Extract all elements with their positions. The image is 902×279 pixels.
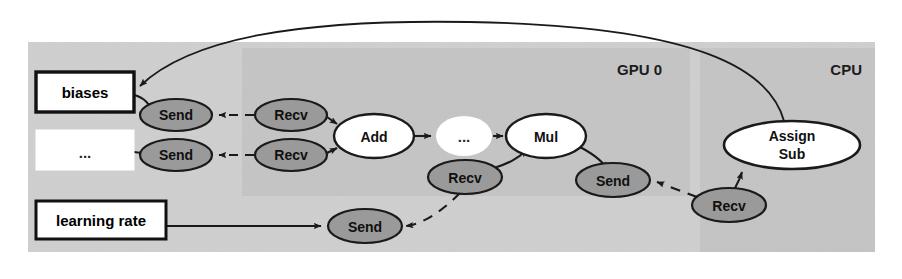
node-middle-dots-label: ... — [458, 128, 471, 145]
node-recv-other[interactable]: Recv — [255, 139, 327, 171]
node-send-other[interactable]: Send — [140, 139, 212, 171]
node-add[interactable]: Add — [334, 114, 414, 158]
node-send-grad-label: Send — [596, 173, 630, 189]
node-recv-lr[interactable]: Recv — [428, 160, 502, 194]
panel-label-cpu: CPU — [830, 61, 862, 78]
node-recv-biases-label: Recv — [274, 107, 308, 123]
node-middle-dots: ... — [436, 116, 492, 156]
node-recv-grad[interactable]: Recv — [692, 188, 766, 222]
node-recv-other-label: Recv — [274, 147, 308, 163]
device-placement-diagram: GPU 0 CPU — [0, 0, 902, 279]
node-add-label: Add — [360, 129, 387, 145]
node-ellipsis-box-label: ... — [79, 144, 92, 161]
node-learning-rate-label: learning rate — [56, 212, 146, 229]
node-recv-lr-label: Recv — [448, 170, 482, 186]
node-send-biases-label: Send — [159, 107, 193, 123]
node-send-lr-label: Send — [348, 219, 382, 235]
node-assign-sub-label-line2: Sub — [779, 146, 805, 162]
node-recv-biases[interactable]: Recv — [255, 99, 327, 131]
node-mul-label: Mul — [534, 129, 558, 145]
panel-label-gpu0: GPU 0 — [617, 61, 662, 78]
node-send-lr[interactable]: Send — [328, 209, 402, 243]
node-mul[interactable]: Mul — [506, 114, 586, 158]
node-learning-rate[interactable]: learning rate — [36, 201, 166, 239]
node-send-biases[interactable]: Send — [140, 99, 212, 131]
node-biases[interactable]: biases — [36, 72, 134, 112]
node-recv-grad-label: Recv — [712, 198, 746, 214]
node-assign-sub-label-line1: Assign — [769, 128, 816, 144]
node-biases-label: biases — [62, 84, 109, 101]
graph-canvas: GPU 0 CPU — [0, 0, 902, 279]
node-send-grad[interactable]: Send — [576, 163, 650, 197]
node-send-other-label: Send — [159, 147, 193, 163]
node-ellipsis-box[interactable]: ... — [36, 130, 134, 170]
node-assign-sub[interactable]: Assign Sub — [724, 121, 860, 169]
